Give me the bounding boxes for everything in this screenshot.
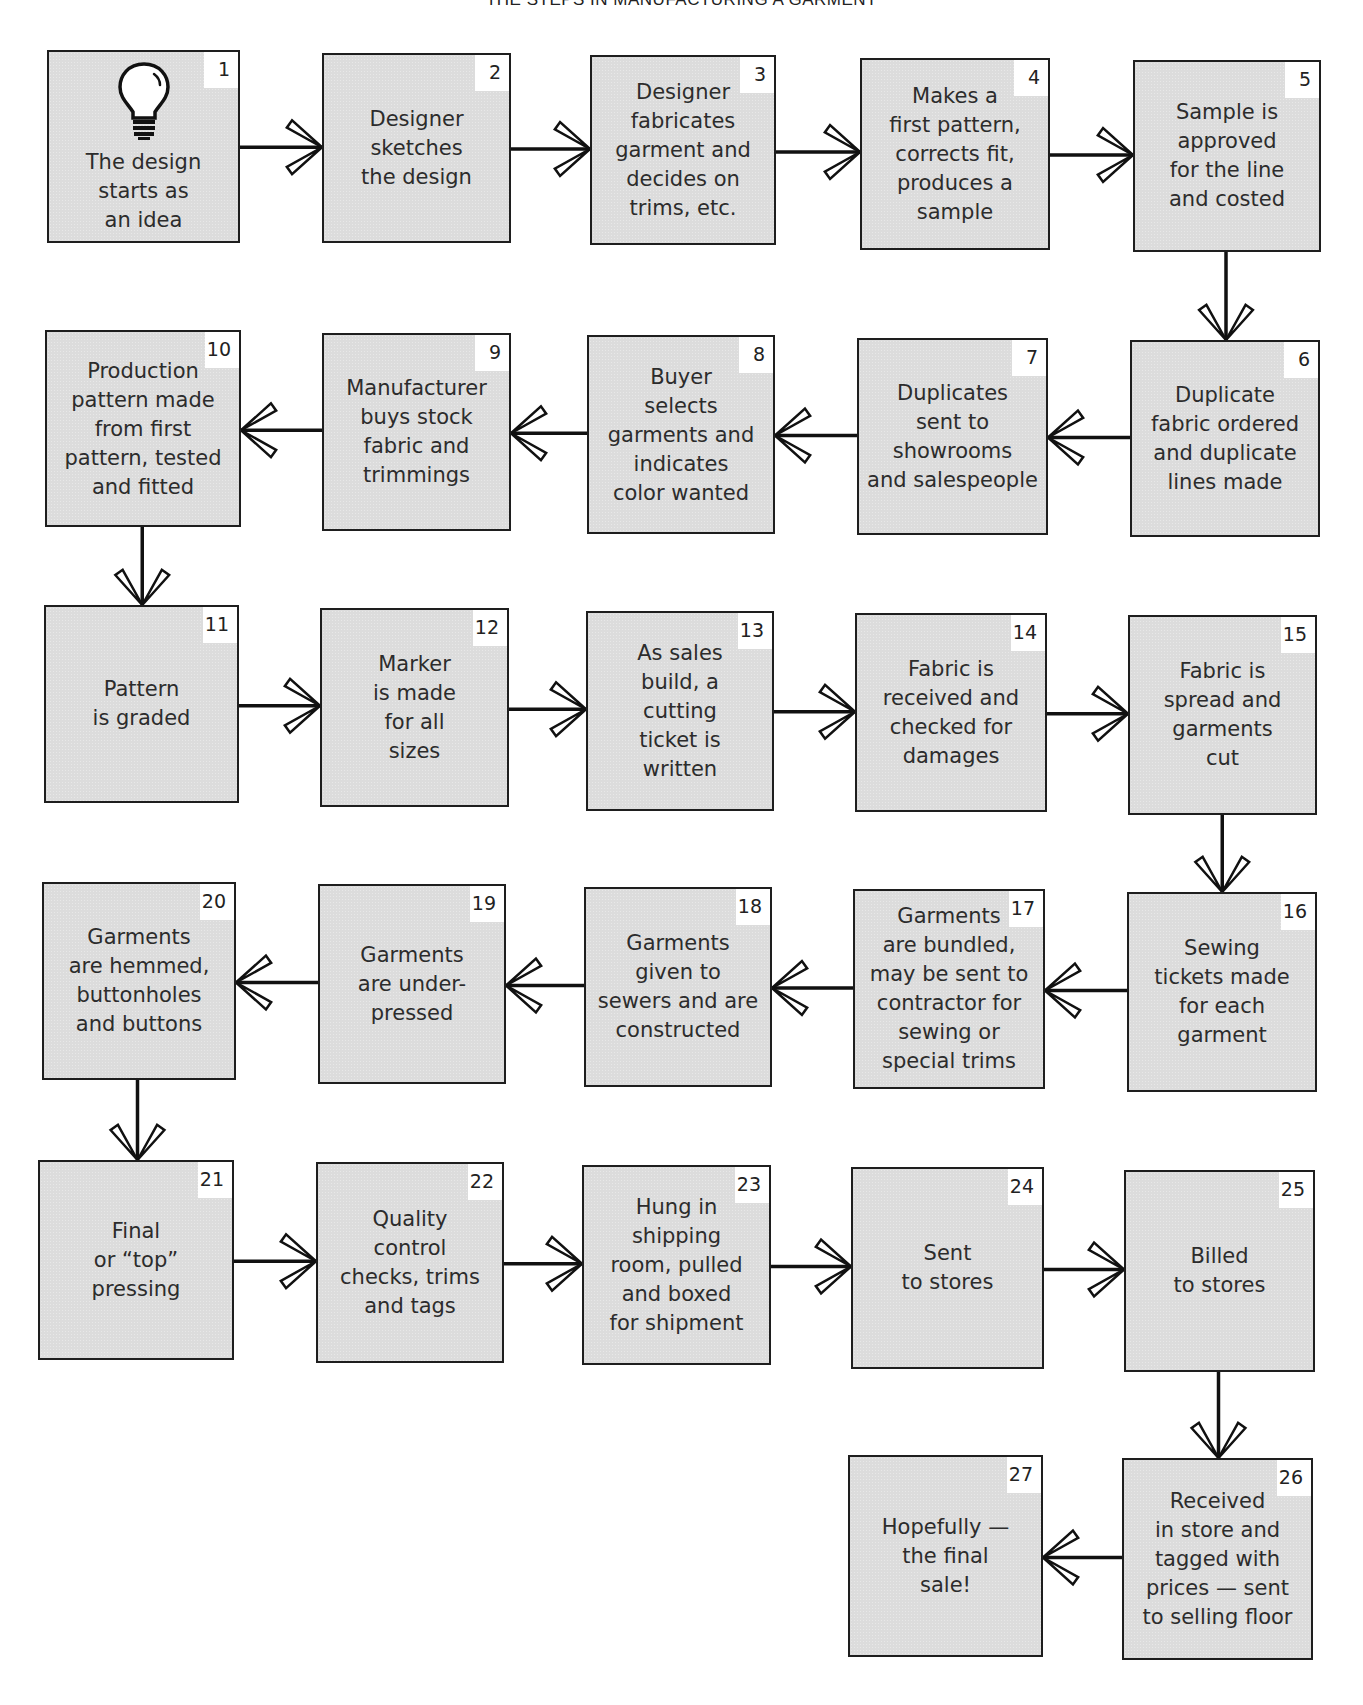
arrow-10-to-11 (115, 527, 169, 605)
step-label: Sewing tickets made for each garment (1129, 934, 1315, 1050)
step-label: Hopefully — the final sale! (850, 1513, 1041, 1600)
arrow-9-to-10 (241, 403, 322, 457)
step-label: Fabric is spread and garments cut (1130, 657, 1315, 773)
step-box-22: 22Quality control checks, trims and tags (316, 1162, 504, 1363)
arrow-20-to-21 (111, 1080, 165, 1160)
arrow-1-to-2 (240, 120, 322, 174)
step-box-12: 12Marker is made for all sizes (320, 608, 509, 807)
step-box-2: 2Designer sketches the design (322, 53, 511, 243)
step-number: 20 (200, 884, 234, 920)
step-number: 6 (1284, 342, 1318, 378)
step-box-25: 25Billed to stores (1124, 1170, 1315, 1372)
step-box-8: 8Buyer selects garments and indicates co… (587, 335, 775, 534)
step-label: Manufacturer buys stock fabric and trimm… (324, 374, 509, 490)
step-label: Billed to stores (1126, 1242, 1313, 1300)
step-label: Marker is made for all sizes (322, 650, 507, 766)
arrow-24-to-25 (1044, 1243, 1124, 1297)
step-number: 16 (1281, 894, 1315, 930)
arrow-14-to-15 (1047, 687, 1128, 741)
step-number: 14 (1011, 615, 1045, 651)
step-label: Duplicates sent to showrooms and salespe… (859, 379, 1046, 495)
step-box-26: 26Received in store and tagged with pric… (1122, 1458, 1313, 1660)
arrow-19-to-20 (236, 956, 318, 1010)
step-label: Makes a first pattern, corrects fit, pro… (862, 82, 1048, 227)
step-number: 5 (1285, 62, 1319, 98)
step-box-27: 27Hopefully — the final sale! (848, 1455, 1043, 1657)
step-box-24: 24Sent to stores (851, 1167, 1044, 1369)
step-number: 9 (475, 335, 509, 371)
step-box-1: 1The design starts as an idea (47, 50, 240, 243)
arrow-16-to-17 (1045, 964, 1127, 1018)
step-number: 7 (1012, 340, 1046, 376)
step-box-3: 3Designer fabricates garment and decides… (590, 55, 776, 245)
step-box-20: 20Garments are hemmed, buttonholes and b… (42, 882, 236, 1080)
lightbulb-icon (116, 60, 172, 146)
arrow-6-to-7 (1048, 411, 1130, 465)
step-box-5: 5Sample is approved for the line and cos… (1133, 60, 1321, 252)
step-label: Received in store and tagged with prices… (1124, 1487, 1311, 1632)
step-box-19: 19Garments are under- pressed (318, 884, 506, 1084)
step-box-15: 15Fabric is spread and garments cut (1128, 615, 1317, 815)
step-label: Garments are hemmed, buttonholes and but… (44, 923, 234, 1039)
step-box-9: 9Manufacturer buys stock fabric and trim… (322, 333, 511, 531)
arrow-2-to-3 (511, 122, 590, 176)
step-number: 11 (203, 607, 237, 643)
arrow-25-to-26 (1192, 1372, 1246, 1458)
step-label: Production pattern made from first patte… (47, 356, 239, 501)
step-label: Hung in shipping room, pulled and boxed … (584, 1193, 769, 1338)
arrow-26-to-27 (1043, 1531, 1122, 1585)
step-box-4: 4Makes a first pattern, corrects fit, pr… (860, 58, 1050, 250)
arrow-17-to-18 (772, 961, 853, 1015)
step-number: 12 (473, 610, 507, 646)
step-box-17: 17Garments are bundled, may be sent to c… (853, 889, 1045, 1089)
step-label: Designer sketches the design (324, 105, 509, 192)
step-label: Quality control checks, trims and tags (318, 1205, 502, 1321)
step-label: Garments are bundled, may be sent to con… (855, 902, 1043, 1076)
arrow-12-to-13 (509, 682, 586, 736)
arrow-4-to-5 (1050, 128, 1133, 182)
step-box-10: 10Production pattern made from first pat… (45, 330, 241, 527)
arrow-21-to-22 (234, 1234, 316, 1288)
step-label: The design starts as an idea (49, 148, 238, 235)
step-number: 25 (1279, 1172, 1313, 1208)
step-label: Buyer selects garments and indicates col… (589, 362, 773, 507)
step-label: Fabric is received and checked for damag… (857, 655, 1045, 771)
arrow-23-to-24 (771, 1240, 851, 1294)
step-number: 27 (1007, 1457, 1041, 1493)
arrow-22-to-23 (504, 1237, 582, 1291)
step-number: 22 (468, 1164, 502, 1200)
step-number: 24 (1008, 1169, 1042, 1205)
arrow-5-to-6 (1199, 252, 1253, 340)
step-number: 15 (1281, 617, 1315, 653)
arrow-13-to-14 (774, 685, 855, 739)
step-label: Garments are under- pressed (320, 941, 504, 1028)
arrow-8-to-9 (511, 406, 587, 460)
flow-arrows (0, 0, 1363, 1705)
step-box-13: 13As sales build, a cutting ticket is wr… (586, 611, 774, 811)
step-number: 19 (470, 886, 504, 922)
arrow-7-to-8 (775, 409, 857, 463)
step-label: Pattern is graded (46, 675, 237, 733)
step-label: Sample is approved for the line and cost… (1135, 98, 1319, 214)
step-box-6: 6Duplicate fabric ordered and duplicate … (1130, 340, 1320, 537)
step-box-23: 23Hung in shipping room, pulled and boxe… (582, 1165, 771, 1365)
arrow-11-to-12 (239, 679, 320, 733)
step-label: Garments given to sewers and are constru… (586, 929, 770, 1045)
step-number: 21 (198, 1162, 232, 1198)
step-box-21: 21Final or “top” pressing (38, 1160, 234, 1360)
step-label: Duplicate fabric ordered and duplicate l… (1132, 381, 1318, 497)
step-number: 18 (736, 889, 770, 925)
step-label: Sent to stores (853, 1239, 1042, 1297)
step-box-16: 16Sewing tickets made for each garment (1127, 892, 1317, 1092)
arrow-3-to-4 (776, 125, 860, 179)
step-label: Final or “top” pressing (40, 1217, 232, 1304)
step-label: Designer fabricates garment and decides … (592, 78, 774, 223)
step-box-7: 7Duplicates sent to showrooms and salesp… (857, 338, 1048, 535)
step-label: As sales build, a cutting ticket is writ… (588, 639, 772, 784)
step-box-14: 14Fabric is received and checked for dam… (855, 613, 1047, 812)
arrow-15-to-16 (1195, 815, 1249, 892)
step-box-11: 11Pattern is graded (44, 605, 239, 803)
arrow-18-to-19 (506, 959, 584, 1013)
step-number: 2 (475, 55, 509, 91)
step-box-18: 18Garments given to sewers and are const… (584, 887, 772, 1087)
